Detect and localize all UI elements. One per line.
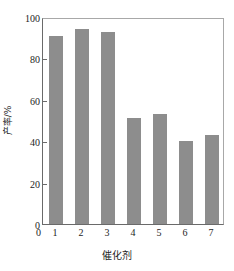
x-tick-label: 5 bbox=[157, 227, 162, 238]
bar bbox=[101, 32, 116, 225]
bar bbox=[75, 29, 90, 224]
plot-area bbox=[42, 18, 224, 225]
bar bbox=[205, 135, 220, 224]
bars-layer bbox=[43, 19, 223, 224]
x-axis-tick-labels: 1234567 bbox=[42, 227, 224, 243]
y-tick-mark bbox=[43, 142, 47, 143]
x-tick-label: 1 bbox=[53, 227, 58, 238]
y-tick-mark bbox=[43, 101, 47, 102]
x-tick-label: 4 bbox=[131, 227, 136, 238]
y-tick-mark bbox=[43, 184, 47, 185]
y-tick-label: 60 bbox=[30, 95, 40, 106]
bar bbox=[49, 36, 64, 224]
x-axis-origin-label: 0 bbox=[36, 227, 41, 238]
x-tick-label: 3 bbox=[105, 227, 110, 238]
y-tick-mark bbox=[43, 59, 47, 60]
y-axis-title-label: 产率/% bbox=[2, 105, 15, 135]
y-tick-label: 100 bbox=[25, 13, 40, 24]
x-axis-title: 催化剂 bbox=[0, 247, 234, 262]
y-tick-label: 40 bbox=[30, 137, 40, 148]
x-tick-label: 6 bbox=[183, 227, 188, 238]
bar bbox=[153, 114, 168, 224]
bar-chart-figure: 产率/% 020406080100 0 1234567 催化剂 bbox=[0, 0, 234, 271]
x-tick-label: 7 bbox=[209, 227, 214, 238]
bar bbox=[179, 141, 194, 224]
bar bbox=[127, 118, 142, 224]
y-tick-label: 20 bbox=[30, 178, 40, 189]
x-tick-label: 2 bbox=[79, 227, 84, 238]
y-tick-label: 80 bbox=[30, 54, 40, 65]
